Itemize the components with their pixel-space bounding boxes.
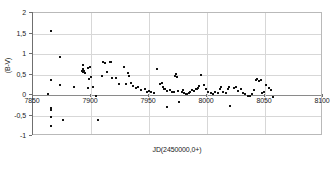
- data-point: [137, 86, 139, 88]
- data-point: [127, 72, 129, 74]
- data-point: [59, 84, 61, 86]
- data-point: [249, 95, 251, 97]
- data-point: [240, 88, 242, 90]
- y-axis-tick-mark: [29, 53, 32, 54]
- y-axis-tick-label: 2: [0, 9, 26, 16]
- data-point: [73, 86, 75, 88]
- x-axis-tick-label: 7900: [82, 97, 97, 104]
- data-point: [270, 89, 272, 91]
- y-axis-tick-label: 0,5: [0, 70, 26, 77]
- data-point: [251, 93, 253, 95]
- y-axis-tick-label: 0: [0, 91, 26, 98]
- data-point: [106, 71, 108, 73]
- data-point: [50, 79, 52, 81]
- data-point: [220, 86, 222, 88]
- gridline-horizontal: [33, 34, 321, 35]
- data-point: [176, 76, 178, 78]
- data-point: [178, 101, 180, 103]
- data-point: [166, 106, 168, 108]
- data-point: [228, 86, 230, 88]
- data-point: [125, 83, 127, 85]
- data-point: [217, 92, 219, 94]
- data-point: [104, 62, 106, 64]
- data-point: [272, 96, 274, 98]
- x-axis-tick-label: 8100: [314, 97, 329, 104]
- data-point: [182, 89, 184, 91]
- data-point: [47, 93, 49, 95]
- data-point: [253, 89, 255, 91]
- data-point: [101, 75, 103, 77]
- data-point: [130, 82, 132, 84]
- data-point: [200, 74, 202, 76]
- data-point: [203, 84, 205, 86]
- y-axis-tick-mark: [29, 135, 32, 136]
- gridline-vertical: [207, 13, 208, 134]
- data-point: [263, 91, 265, 93]
- y-axis-tick-mark: [29, 74, 32, 75]
- data-point: [88, 78, 90, 80]
- gridline-vertical: [149, 13, 150, 134]
- data-point: [50, 125, 52, 127]
- data-point: [84, 72, 86, 74]
- data-point: [156, 68, 158, 70]
- data-point: [118, 83, 120, 85]
- figure-scatter-bv-vs-jd: (B-V) JD(2450000,0+) -1-0,500,511,527850…: [0, 0, 336, 170]
- data-point: [89, 66, 91, 68]
- y-axis-tick-label: 1,5: [0, 29, 26, 36]
- data-point: [95, 95, 97, 97]
- gridline-horizontal: [33, 116, 321, 117]
- data-point: [59, 56, 61, 58]
- data-point: [140, 89, 142, 91]
- data-point: [177, 90, 179, 92]
- y-axis-spine: [32, 12, 33, 135]
- data-point: [225, 92, 227, 94]
- data-point: [205, 88, 207, 90]
- data-point: [173, 91, 175, 93]
- data-point: [265, 84, 267, 86]
- y-axis-tick-label: 1: [0, 50, 26, 57]
- x-axis-tick-label: 7850: [24, 97, 39, 104]
- y-axis-tick-mark: [29, 115, 32, 116]
- data-point: [62, 119, 64, 121]
- data-point: [90, 76, 92, 78]
- x-axis-tick-label: 7950: [140, 97, 155, 104]
- data-point: [50, 109, 52, 111]
- y-axis-tick-mark: [29, 12, 32, 13]
- y-axis-tick-label: -0,5: [0, 111, 26, 118]
- gridline-vertical: [91, 13, 92, 134]
- data-point: [110, 61, 112, 63]
- x-axis-tick-label: 8000: [198, 97, 213, 104]
- data-point: [82, 64, 84, 66]
- data-point: [50, 30, 52, 32]
- data-point: [50, 116, 52, 118]
- data-point: [235, 86, 237, 88]
- data-point: [92, 86, 94, 88]
- gridline-horizontal: [33, 54, 321, 55]
- data-point: [161, 82, 163, 84]
- x-axis-tick-label: 8050: [256, 97, 271, 104]
- data-point: [166, 90, 168, 92]
- data-point: [229, 105, 231, 107]
- data-point: [97, 119, 99, 121]
- data-point: [111, 77, 113, 79]
- gridline-vertical: [265, 13, 266, 134]
- data-point: [132, 85, 134, 87]
- x-axis-line: [33, 95, 321, 96]
- data-point: [198, 85, 200, 87]
- y-axis-tick-label: -1: [0, 132, 26, 139]
- data-point: [260, 79, 262, 81]
- data-point: [115, 77, 117, 79]
- data-point: [128, 75, 130, 77]
- plot-area: [32, 12, 322, 135]
- data-point: [197, 87, 199, 89]
- data-point: [153, 92, 155, 94]
- data-point: [87, 87, 89, 89]
- data-point: [123, 66, 125, 68]
- y-axis-tick-mark: [29, 33, 32, 34]
- x-axis-title: JD(2450000,0+): [32, 146, 322, 153]
- data-point: [175, 73, 177, 75]
